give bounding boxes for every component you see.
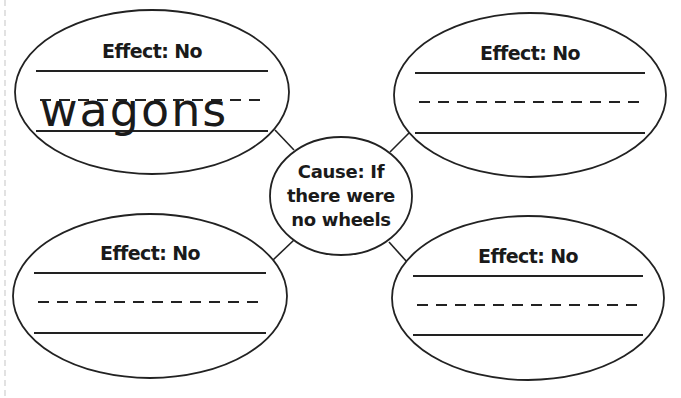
effect-answer-top-left: wagons [40, 83, 228, 137]
cause-line-1: Cause: If [271, 160, 411, 184]
connector-top-right [390, 133, 409, 152]
effect-bubble-bottom-left [13, 214, 287, 378]
effect-bubble-bottom-right [392, 216, 664, 380]
effect-label-top-right: Effect: No [430, 42, 630, 64]
effect-bubble-top-right [394, 13, 666, 177]
connector-top-left [275, 130, 294, 150]
effect-label-bottom-left: Effect: No [50, 242, 250, 264]
cause-line-2: there were [271, 184, 411, 208]
cause-text: Cause: If there were no wheels [271, 160, 411, 232]
effect-label-top-left: Effect: No [52, 40, 252, 62]
cause-line-3: no wheels [271, 208, 411, 232]
connector-bottom-right [389, 242, 407, 262]
effect-label-bottom-right: Effect: No [428, 245, 628, 267]
connector-bottom-left [273, 240, 294, 260]
